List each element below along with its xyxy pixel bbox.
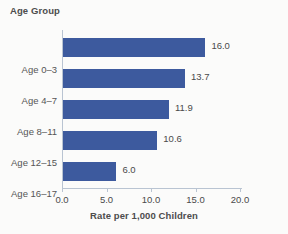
x-tick-label: 5.0: [100, 194, 113, 205]
bar: [63, 162, 116, 181]
category-label-0: Age 0–3: [22, 64, 57, 75]
x-tick-mark: [151, 188, 152, 192]
bar-value-label: 10.6: [163, 133, 182, 144]
x-tick-mark: [62, 188, 63, 192]
x-tick-label: 15.0: [186, 194, 205, 205]
category-label-1: Age 4–7: [22, 95, 57, 106]
bar: [63, 69, 185, 88]
bar-chart: Age Group Age 0–3 Age 4–7 Age 8–11 Age 1…: [0, 0, 288, 234]
x-tick-label: 10.0: [142, 194, 161, 205]
y-axis-title: Age Group: [10, 5, 60, 16]
category-axis-labels: Age 0–3 Age 4–7 Age 8–11 Age 12–15 Age 1…: [0, 30, 57, 188]
bar: [63, 100, 169, 119]
category-label-2: Age 8–11: [17, 126, 57, 137]
x-axis-title: Rate per 1,000 Children: [0, 210, 288, 221]
x-tick-label: 0.0: [55, 194, 68, 205]
x-tick-mark: [240, 188, 241, 192]
bar: [63, 131, 157, 150]
category-label-3: Age 12–15: [11, 157, 57, 168]
bar-value-label: 11.9: [175, 102, 193, 113]
plot-area: 16.0 13.7 11.9 10.6 6.0 0.0 5.0 10.0 15.…: [62, 30, 240, 188]
x-axis-line: [62, 188, 242, 189]
x-tick-mark: [196, 188, 197, 192]
bar-value-label: 16.0: [211, 40, 230, 51]
category-label-4: Age 16–17: [11, 188, 57, 199]
x-tick-mark: [107, 188, 108, 192]
bar-value-label: 6.0: [122, 164, 135, 175]
bar: [63, 38, 205, 57]
bar-value-label: 13.7: [191, 71, 210, 82]
x-tick-label: 20.0: [231, 194, 250, 205]
